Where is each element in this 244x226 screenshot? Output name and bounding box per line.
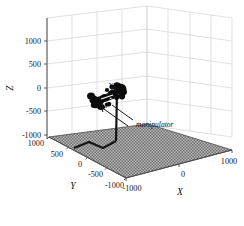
x-tick-neg1000: -1000 <box>122 184 141 193</box>
y-tick-neg500: -500 <box>88 170 103 179</box>
manipulator-arm-cluster <box>87 82 127 110</box>
z-tick-1000: 1000 <box>25 37 41 46</box>
z-tick-500: 500 <box>29 60 41 69</box>
y-tick-1000: 1000 <box>28 139 44 148</box>
manipulator-annotation: manipulator <box>136 120 174 129</box>
y-tick-0: 0 <box>78 160 82 169</box>
y-tick-500: 500 <box>51 150 63 159</box>
axis-z: 1000 500 0 -500 -1000 Z <box>5 18 47 140</box>
grid-back-walls <box>47 6 232 137</box>
x-tick-0: 0 <box>181 170 185 179</box>
figure-3d-plot: 1000 500 0 -500 -1000 Z 1000 500 0 -500 … <box>0 0 244 226</box>
z-tick-neg500: -500 <box>26 107 41 116</box>
x-axis-title: X <box>176 187 184 197</box>
plot-canvas: 1000 500 0 -500 -1000 Z 1000 500 0 -500 … <box>0 0 244 226</box>
y-tick-neg1000: -1000 <box>105 181 124 190</box>
frame-label-y: Y <box>109 81 114 88</box>
ground-plane <box>49 124 232 178</box>
z-axis-title: Z <box>5 85 15 91</box>
x-tick-1000: 1000 <box>221 157 237 166</box>
z-tick-0: 0 <box>37 84 41 93</box>
y-axis-title: Y <box>70 181 77 191</box>
